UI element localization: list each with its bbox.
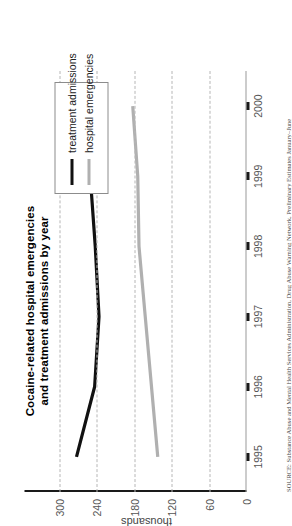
y-axis-title: thousands (121, 516, 172, 526)
legend-label-treatment-admissions: treatment admissions (66, 53, 78, 153)
x-axis-tick-label: 1997 (252, 305, 264, 328)
x-axis-tick-label: 1998 (252, 235, 264, 258)
gridline (209, 71, 210, 492)
legend-item-hospital-emergencies: hospital emergencies (83, 91, 95, 185)
legend-label-hospital-emergencies: hospital emergencies (83, 54, 95, 153)
x-axis-tick (247, 383, 250, 391)
y-axis-tick-label: 0 (241, 499, 253, 505)
x-axis-tick (247, 172, 250, 180)
source-note: SOURCE: Substance Abuse and Mental Healt… (285, 0, 288, 492)
rotated-figure-wrapper: Cocaine-related hospital emergencies and… (17, 0, 288, 526)
x-axis-tick (247, 242, 250, 250)
series-line (133, 106, 158, 457)
chart-title-line-1: Cocaine-related hospital emergencies (23, 96, 37, 526)
y-axis-tick-label: 120 (166, 499, 178, 517)
gridline (134, 71, 135, 492)
y-axis-tick-label: 240 (91, 499, 103, 517)
x-axis-tick-label: 1996 (252, 375, 264, 398)
legend-swatch-icon-treatment-admissions (70, 159, 73, 185)
x-axis-tick (247, 313, 250, 321)
chart-figure: Cocaine-related hospital emergencies and… (17, 0, 288, 526)
x-axis-tick (247, 453, 250, 461)
y-axis-tick-label: 300 (53, 499, 65, 517)
x-axis-tick-label: 2000 (252, 94, 264, 117)
x-axis-tick-label: 1995 (252, 445, 264, 468)
chart-legend: treatment admissions hospital emergencie… (55, 82, 109, 194)
x-axis-tick-label: 1999 (252, 165, 264, 188)
legend-item-treatment-admissions: treatment admissions (66, 91, 78, 185)
gridline (172, 71, 173, 492)
legend-swatch-icon-hospital-emergencies (87, 159, 90, 185)
y-axis-tick-label: 60 (203, 499, 215, 511)
x-axis-tick (247, 102, 250, 110)
y-axis-tick-label: 180 (128, 499, 140, 517)
